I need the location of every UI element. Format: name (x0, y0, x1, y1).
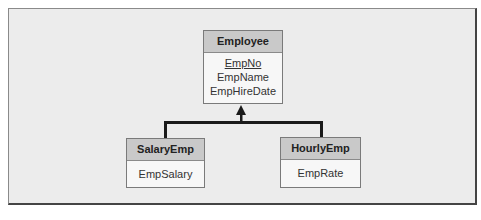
class-employee-title: Employee (204, 31, 282, 53)
attribute-emprate: EmpRate (281, 166, 360, 180)
connector-hourlyemp (320, 121, 323, 138)
class-salaryemp-title: SalaryEmp (127, 139, 204, 161)
class-salaryemp: SalaryEmp EmpSalary (126, 138, 205, 188)
class-hourlyemp: HourlyEmp EmpRate (280, 137, 361, 188)
class-employee: Employee EmpNo EmpName EmpHireDate (203, 30, 283, 104)
class-hourlyemp-attributes: EmpRate (281, 160, 360, 180)
class-hourlyemp-title: HourlyEmp (281, 138, 360, 160)
class-employee-attributes: EmpNo EmpName EmpHireDate (204, 53, 282, 98)
attribute-empno: EmpNo (204, 56, 282, 70)
class-salaryemp-attributes: EmpSalary (127, 161, 204, 181)
connector-horizontal (164, 121, 323, 124)
attribute-emphiredate: EmpHireDate (204, 84, 282, 98)
connector-salaryemp (164, 121, 167, 138)
attribute-empname: EmpName (204, 70, 282, 84)
attribute-empsalary: EmpSalary (127, 167, 204, 181)
